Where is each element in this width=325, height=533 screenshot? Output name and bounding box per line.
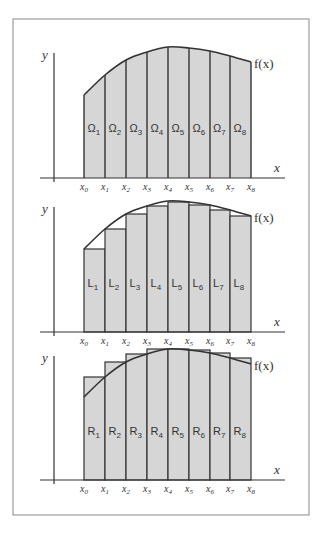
x-tick-label: x6 (205, 483, 214, 496)
x-tick-label: x5 (184, 483, 193, 496)
x-tick-label: x2 (121, 181, 130, 194)
lower-rectangle (126, 214, 147, 332)
x-tick-label: x3 (142, 181, 151, 194)
lower-rectangle (210, 210, 230, 332)
lower-rectangle (147, 206, 168, 332)
x-axis-label: x (273, 314, 280, 329)
x-tick-label: x1 (100, 483, 109, 496)
lower-sum-panel: yxf(x)x0x1x2x3x4x5x6x7x8L1L2L3L4L5L6L7L8 (40, 201, 285, 348)
riemann-sum-figure: yxf(x)x0x1x2x3x4x5x6x7x8Ω1Ω2Ω3Ω4Ω5Ω6Ω7Ω8… (0, 0, 325, 533)
lower-rectangle (168, 202, 189, 332)
exact-area-panel: yxf(x)x0x1x2x3x4x5x6x7x8Ω1Ω2Ω3Ω4Ω5Ω6Ω7Ω8 (40, 47, 285, 194)
x-tick-label: x8 (246, 335, 255, 348)
x-tick-label: x4 (163, 335, 172, 348)
x-tick-label: x6 (205, 181, 214, 194)
x-tick-label: x6 (205, 335, 214, 348)
x-tick-label: x5 (184, 181, 193, 194)
x-tick-label: x2 (121, 483, 130, 496)
upper-rectangle (230, 358, 251, 480)
upper-rectangle (105, 362, 126, 480)
x-tick-label: x0 (79, 335, 88, 348)
x-tick-label: x2 (121, 335, 130, 348)
x-tick-label: x5 (184, 335, 193, 348)
x-tick-label: x0 (79, 483, 88, 496)
x-axis-label: x (273, 462, 280, 477)
y-axis-label: y (40, 47, 48, 62)
curve-label: f(x) (254, 358, 274, 373)
x-tick-label: x3 (142, 483, 151, 496)
x-tick-label: x0 (79, 181, 88, 194)
upper-rectangle (126, 354, 147, 480)
x-tick-label: x7 (225, 181, 234, 194)
x-tick-label: x8 (246, 483, 255, 496)
x-tick-label: x8 (246, 181, 255, 194)
curve-label: f(x) (254, 210, 274, 225)
x-axis-label: x (273, 160, 280, 175)
lower-rectangle (189, 205, 210, 332)
upper-rectangle (147, 349, 168, 480)
x-tick-label: x7 (225, 483, 234, 496)
y-axis-label: y (40, 350, 48, 365)
y-axis-label: y (40, 201, 48, 216)
x-tick-label: x4 (163, 483, 172, 496)
x-tick-label: x7 (225, 335, 234, 348)
upper-rectangle (189, 350, 210, 480)
x-tick-label: x1 (100, 181, 109, 194)
x-tick-label: x1 (100, 335, 109, 348)
upper-rectangle (210, 353, 230, 480)
x-tick-label: x3 (142, 335, 151, 348)
upper-sum-panel: yxf(x)x0x1x2x3x4x5x6x7x8R1R2R3R4R5R6R7R8 (40, 349, 285, 496)
upper-rectangle (168, 349, 189, 480)
x-tick-label: x4 (163, 181, 172, 194)
lower-rectangle (230, 216, 251, 332)
curve-label: f(x) (254, 56, 274, 71)
